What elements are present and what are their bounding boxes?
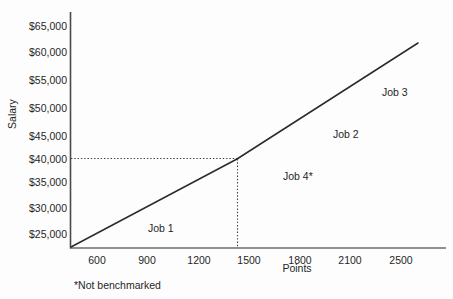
y-tick-label-35000: $35,000 — [1, 176, 67, 188]
axis-lines — [70, 12, 446, 249]
annotation-job-1: Job 1 — [148, 222, 174, 234]
y-axis-title: Salary — [6, 89, 18, 139]
chart-footnote: *Not benchmarked — [74, 279, 161, 291]
y-tick-label-60000: $60,000 — [1, 46, 67, 58]
y-tick-label-40000: $40,000 — [1, 153, 67, 165]
x-tick-label-900: 900 — [117, 254, 177, 266]
y-tick-label-25000: $25,000 — [1, 228, 67, 240]
annotation-job-2: Job 2 — [333, 128, 359, 140]
y-tick-label-55000: $55,000 — [1, 74, 67, 86]
y-axis-tick-labels: $65,000 $60,000 $55,000 $50,000 $45,000 … — [0, 0, 67, 299]
x-tick-label-2500: 2500 — [371, 254, 431, 266]
data-series-payline — [71, 43, 418, 247]
y-tick-label-30000: $30,000 — [1, 202, 67, 214]
pay-line — [71, 43, 418, 247]
x-axis-title: Points — [267, 262, 327, 274]
salary-points-chart: $65,000 $60,000 $55,000 $50,000 $45,000 … — [0, 0, 453, 299]
annotation-job-4: Job 4* — [283, 170, 313, 182]
y-tick-label-65000: $65,000 — [1, 20, 67, 32]
annotation-job-3: Job 3 — [382, 86, 408, 98]
